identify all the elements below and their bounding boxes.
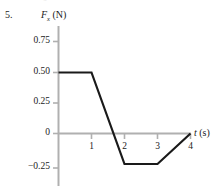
x-tick-label-0: 1	[82, 141, 101, 151]
x-tick-label-1: 2	[115, 141, 134, 151]
y-tick-label-0: 0.75	[12, 35, 50, 45]
y-tick-label-4: −0.25	[8, 161, 50, 171]
y-tick-label-3: 0	[12, 127, 50, 137]
y-tick-label-2: 0.25	[12, 96, 50, 106]
x-tick-label-2: 3	[148, 141, 167, 151]
y-tick-label-1: 0.50	[12, 66, 50, 76]
x-tick-label-3: 4	[181, 141, 200, 151]
force-time-graph-figure: a. v g 5. Fx (N) t (s) 0.75 0.50	[0, 0, 215, 189]
